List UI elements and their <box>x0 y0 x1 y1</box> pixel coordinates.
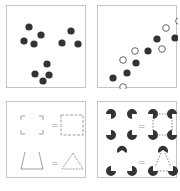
completed-triangle-icon <box>62 153 83 169</box>
pacman-icon <box>127 109 137 119</box>
dot <box>37 31 44 38</box>
pacman-icon <box>106 130 116 140</box>
dot <box>43 60 50 67</box>
closure-diagram: = = <box>7 102 87 179</box>
equals-sign: = <box>138 157 146 167</box>
similarity-panel <box>97 5 177 88</box>
filled-dot <box>109 74 116 81</box>
hollow-dot <box>163 25 170 32</box>
dot <box>58 39 65 46</box>
dot <box>20 37 27 44</box>
illusory-contour-panel: = = <box>97 101 177 178</box>
pacman-icon <box>106 109 116 119</box>
equals-sign: = <box>51 120 59 130</box>
similarity-dots <box>98 6 178 89</box>
equals-sign: = <box>51 158 59 168</box>
dot <box>67 27 74 34</box>
pacman-icon <box>117 146 127 153</box>
filled-dot <box>123 69 130 76</box>
broken-triangle-icon <box>21 152 43 169</box>
hollow-dot <box>159 46 166 53</box>
pacman-icon <box>168 166 178 176</box>
illusory-contour-diagram: = = <box>98 102 178 179</box>
dot <box>45 71 52 78</box>
dot <box>30 40 37 47</box>
filled-dot <box>144 47 151 54</box>
pacman-icon <box>106 166 116 176</box>
hollow-dot <box>120 84 127 89</box>
equals-sign: = <box>138 121 146 131</box>
filled-dot <box>171 34 178 41</box>
illusory-triangle-outline <box>155 153 171 171</box>
closure-panel: = = <box>6 101 86 178</box>
hollow-dot <box>120 57 127 64</box>
hollow-dot <box>132 48 139 55</box>
hollow-dot <box>176 18 178 25</box>
pacman-icon <box>127 130 137 140</box>
filled-dot <box>132 59 139 66</box>
dot <box>74 40 81 47</box>
pacman-icon <box>148 166 158 176</box>
dot <box>39 77 46 84</box>
dot <box>25 23 32 30</box>
dot <box>31 70 38 77</box>
completed-square-icon <box>61 115 83 135</box>
pacman-icon <box>127 166 137 176</box>
proximity-panel <box>6 5 86 88</box>
proximity-dots <box>7 6 87 89</box>
pacman-icon <box>158 146 168 153</box>
broken-square-icon <box>21 116 43 134</box>
filled-dot <box>153 35 160 42</box>
